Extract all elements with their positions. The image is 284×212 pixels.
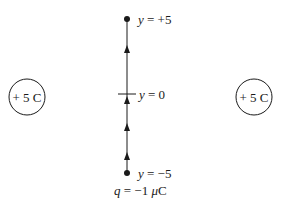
unit-text: C xyxy=(158,183,167,198)
arrow-up-icon xyxy=(124,123,130,131)
eq-text: = 0 xyxy=(145,87,165,102)
eq-text: = +5 xyxy=(144,12,172,27)
arrow-up-icon xyxy=(124,152,130,160)
point-bottom-dot xyxy=(124,170,130,176)
left-charge-label: + 5 C xyxy=(9,91,45,104)
arrow-up-icon xyxy=(124,96,130,104)
label-y-minus5: y = −5 xyxy=(138,167,171,180)
eq-text: = −5 xyxy=(144,166,172,181)
label-y-0: y = 0 xyxy=(139,88,165,101)
arrow-up-icon xyxy=(124,45,130,53)
right-charge-label: + 5 C xyxy=(236,91,272,104)
label-y-plus5: y = +5 xyxy=(138,13,171,26)
eq-text: = −1 xyxy=(121,183,152,198)
point-top-dot xyxy=(124,16,130,22)
label-test-charge: q = −1 μC xyxy=(114,184,167,197)
